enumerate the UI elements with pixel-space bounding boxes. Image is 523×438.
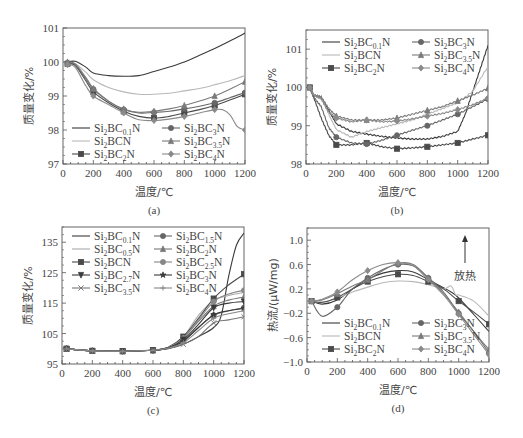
series-line: [67, 302, 245, 352]
series-line: [67, 309, 245, 352]
x-tick-label: 600: [390, 365, 407, 377]
x-tick-label: 1200: [478, 365, 501, 377]
x-tick-label: 1000: [204, 167, 227, 179]
y-tick-label: 98: [291, 158, 303, 170]
data-marker: [425, 123, 430, 128]
legend: Si2BC0.1NSi2BCNSi2BC2NSi2BC3NSi2BC3.5NSi…: [322, 317, 481, 358]
series-line: [67, 311, 245, 352]
x-tick-label: 1200: [477, 167, 500, 179]
x-tick-label: 1200: [234, 167, 257, 179]
legend-label: Si2BC4N: [434, 343, 475, 358]
x-axis-label: 温度/℃: [134, 385, 172, 399]
x-tick-label: 400: [115, 167, 132, 179]
exotherm-annotation: 放热: [454, 235, 476, 283]
y-tick-label: 100: [286, 81, 303, 93]
y-tick-label: 100: [43, 56, 60, 68]
x-tick-label: 600: [389, 167, 406, 179]
y-tick-label: 0.6: [289, 259, 303, 271]
data-marker: [328, 65, 333, 70]
data-marker: [242, 90, 247, 95]
data-marker: [485, 133, 490, 138]
y-tick-label: 95: [47, 358, 59, 370]
x-tick-label: 1200: [233, 367, 256, 379]
data-marker: [394, 146, 399, 151]
panel-label: (c): [147, 404, 160, 417]
x-tick-label: 800: [176, 167, 193, 179]
y-tick-label: 99: [291, 120, 303, 132]
x-tick-label: 400: [114, 367, 131, 379]
data-marker: [455, 140, 460, 145]
x-tick-label: 0: [60, 167, 66, 179]
data-marker: [211, 299, 216, 304]
data-marker: [486, 322, 491, 327]
data-marker: [418, 39, 423, 44]
x-tick-label: 800: [420, 365, 437, 377]
data-marker: [335, 305, 340, 310]
data-marker: [168, 125, 173, 130]
data-marker: [241, 272, 246, 277]
data-marker: [418, 320, 423, 325]
y-tick-label: 101: [286, 43, 303, 55]
data-marker: [78, 151, 83, 156]
panel-label: (d): [392, 402, 405, 415]
series-line: [67, 317, 245, 351]
data-marker: [242, 127, 247, 133]
legend-label: Si2BC4N: [184, 148, 225, 163]
data-marker: [425, 144, 430, 149]
x-tick-label: 1000: [448, 365, 471, 377]
y-axis-label: 质量变化/%: [265, 68, 279, 126]
y-tick-label: 97: [48, 158, 60, 170]
x-tick-label: 800: [175, 367, 192, 379]
data-marker: [456, 298, 461, 303]
legend-label: Si2BC4N: [176, 282, 217, 297]
y-tick-label: 0.2: [289, 283, 303, 295]
data-marker: [394, 133, 399, 138]
y-tick-label: 135: [42, 236, 59, 248]
y-axis-label: 质量变化/%: [22, 67, 36, 125]
y-tick-label: 125: [42, 267, 59, 279]
data-marker: [328, 346, 333, 351]
data-marker: [160, 272, 166, 278]
y-tick-label: 99: [48, 90, 60, 102]
data-marker: [365, 268, 370, 274]
x-tick-label: 1000: [447, 167, 470, 179]
figure: 020040060080010001200979899100101温度/℃质量变…: [0, 0, 523, 438]
y-tick-label: 101: [43, 22, 60, 34]
x-tick-label: 200: [328, 167, 345, 179]
data-marker: [168, 151, 173, 157]
x-tick-label: 200: [84, 367, 101, 379]
x-tick-label: 0: [59, 367, 65, 379]
y-axis-label: 质量变化/%: [21, 266, 35, 324]
data-marker: [212, 100, 217, 105]
x-tick-label: 1000: [203, 367, 226, 379]
x-tick-label: 200: [329, 365, 346, 377]
annotation-label: 放热: [454, 269, 476, 283]
series-line: [67, 308, 245, 352]
legend-label: Si2BC3.5N: [94, 282, 141, 297]
legend-label: Si2BC2N: [344, 62, 385, 77]
legend-label: Si2BC4N: [434, 62, 475, 77]
legend-label: Si2BC2N: [344, 343, 385, 358]
x-tick-label: 400: [358, 167, 375, 179]
y-tick-label: 105: [42, 328, 59, 340]
x-tick-label: 0: [303, 167, 309, 179]
series-group: [64, 233, 247, 354]
data-marker: [211, 320, 216, 325]
chart-panel-d: 020040060080010001200−1.0−0.6−0.20.20.61…: [266, 228, 501, 415]
x-tick-label: 0: [304, 365, 310, 377]
data-marker: [160, 259, 165, 264]
x-axis-label: 温度/℃: [135, 185, 173, 199]
legend-label: Si2BC2N: [94, 148, 135, 163]
chart-panel-b: 0200400600800100012009899100101温度/℃质量变化/…: [265, 30, 500, 217]
series-line: [67, 290, 245, 351]
panel-label: (b): [391, 204, 404, 217]
x-tick-label: 600: [146, 167, 163, 179]
data-marker: [418, 346, 423, 352]
legend: Si2BC0.1NSi2BC0.5NSi2BCNSi2BC2.7NSi2BC3.…: [72, 230, 223, 297]
data-marker: [334, 135, 339, 140]
arrow-head-icon: [462, 235, 468, 242]
legend: Si2BC0.1NSi2BCNSi2BC2NSi2BC3NSi2BC3.5NSi…: [322, 36, 481, 77]
y-axis-label: 热流/(μW/mg): [266, 258, 280, 332]
data-marker: [334, 142, 339, 147]
data-marker: [241, 288, 246, 293]
